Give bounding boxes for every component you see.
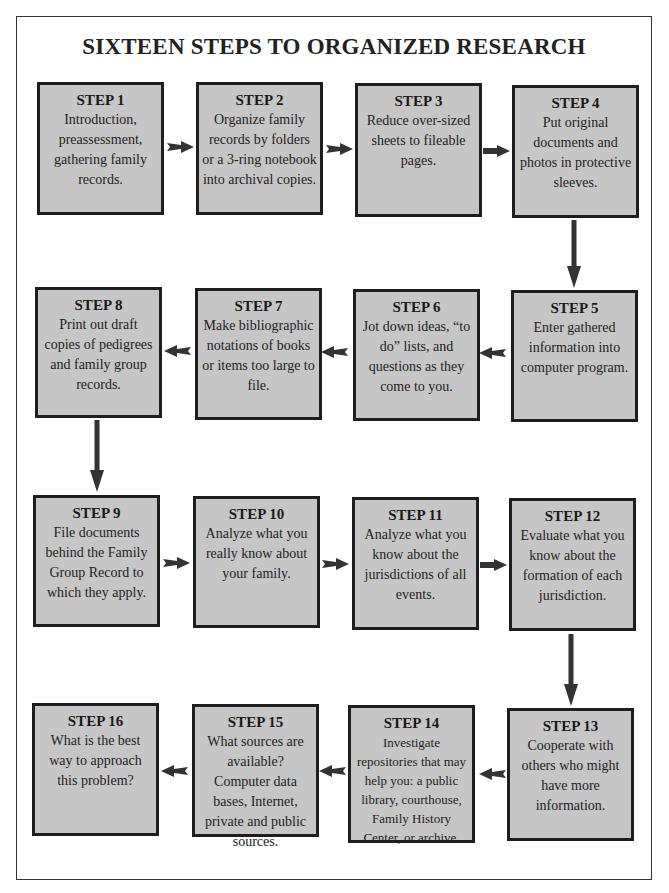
- step-label: STEP 9: [36, 504, 157, 523]
- step-label: STEP 7: [198, 297, 319, 316]
- step-label: STEP 4: [515, 94, 636, 113]
- arrow-down-icon: [89, 420, 105, 492]
- step-7-box: STEP 7 Make bibliographic notations of b…: [195, 288, 322, 420]
- step-description: Print out draft copies of pedigrees and …: [38, 315, 159, 395]
- arrow-down-icon: [566, 220, 582, 288]
- step-label: STEP 1: [40, 91, 161, 110]
- step-12-box: STEP 12 Evaluate what you know about the…: [509, 498, 636, 631]
- step-1-box: STEP 1 Introduction, preassessment, gath…: [37, 82, 164, 215]
- step-3-box: STEP 3 Reduce over-sized sheets to filea…: [355, 83, 482, 217]
- step-9-box: STEP 9 File documents behind the Family …: [33, 495, 160, 627]
- step-description: Jot down ideas, “to do” lists, and quest…: [356, 317, 477, 397]
- arrow-left-icon: [318, 763, 346, 779]
- step-description: Reduce over-sized sheets to fileable pag…: [358, 111, 479, 171]
- step-label: STEP 2: [199, 91, 320, 110]
- step-description: What is the best way to approach this pr…: [35, 731, 156, 791]
- step-description: What sources are available? Computer dat…: [195, 732, 316, 852]
- arrow-left-icon: [320, 344, 348, 360]
- step-label: STEP 8: [38, 296, 159, 315]
- step-15-box: STEP 15 What sources are available? Comp…: [192, 704, 319, 837]
- step-label: STEP 15: [195, 713, 316, 732]
- step-description: Organize family records by folders or a …: [199, 110, 320, 190]
- step-16-box: STEP 16 What is the best way to approach…: [32, 703, 159, 836]
- arrow-right-icon: [167, 139, 195, 155]
- arrow-right-icon: [326, 141, 354, 157]
- step-description: Cooperate with others who might have mor…: [510, 736, 631, 816]
- arrow-right-icon: [163, 555, 191, 571]
- step-13-box: STEP 13 Cooperate with others who might …: [507, 708, 634, 841]
- arrow-down-icon: [563, 634, 579, 706]
- step-description: Investigate repositories that may help y…: [351, 733, 472, 847]
- diagram-title: SIXTEEN STEPS TO ORGANIZED RESEARCH: [16, 34, 652, 60]
- arrow-left-icon: [478, 766, 506, 782]
- step-description: Evaluate what you know about the formati…: [512, 526, 633, 606]
- step-label: STEP 6: [356, 298, 477, 317]
- step-6-box: STEP 6 Jot down ideas, “to do” lists, an…: [353, 289, 480, 421]
- step-label: STEP 16: [35, 712, 156, 731]
- step-4-box: STEP 4 Put original documents and photos…: [512, 85, 639, 218]
- step-description: Make bibliographic notations of books or…: [198, 316, 319, 396]
- arrow-right-icon: [322, 556, 350, 572]
- step-2-box: STEP 2 Organize family records by folder…: [196, 82, 323, 215]
- step-label: STEP 13: [510, 717, 631, 736]
- step-description: Put original documents and photos in pro…: [515, 113, 636, 193]
- step-label: STEP 11: [355, 506, 476, 525]
- arrow-left-icon: [163, 343, 191, 359]
- step-label: STEP 12: [512, 507, 633, 526]
- step-10-box: STEP 10 Analyze what you really know abo…: [193, 496, 320, 628]
- arrow-left-icon: [160, 763, 188, 779]
- step-description: Introduction, preassessment, gathering f…: [40, 110, 161, 190]
- arrow-right-icon: [480, 557, 508, 573]
- step-description: Analyze what you know about the jurisdic…: [355, 525, 476, 605]
- step-label: STEP 5: [514, 299, 635, 318]
- step-8-box: STEP 8 Print out draft copies of pedigre…: [35, 287, 162, 418]
- step-11-box: STEP 11 Analyze what you know about the …: [352, 497, 479, 630]
- step-label: STEP 10: [196, 505, 317, 524]
- step-14-box: STEP 14 Investigate repositories that ma…: [348, 705, 475, 843]
- arrow-left-icon: [478, 345, 506, 361]
- step-label: STEP 14: [351, 714, 472, 733]
- arrow-right-icon: [483, 143, 511, 159]
- step-description: File documents behind the Family Group R…: [36, 523, 157, 603]
- step-description: Enter gathered information into computer…: [514, 318, 635, 378]
- step-description: Analyze what you really know about your …: [196, 524, 317, 584]
- step-5-box: STEP 5 Enter gathered information into c…: [511, 290, 638, 422]
- step-label: STEP 3: [358, 92, 479, 111]
